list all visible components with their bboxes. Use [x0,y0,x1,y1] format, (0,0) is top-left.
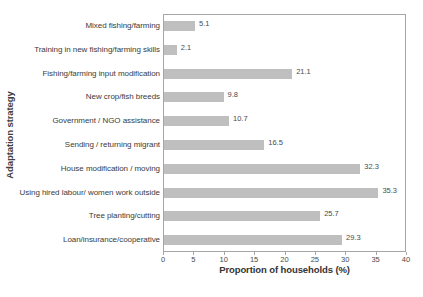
bar-row: 35.3 [164,182,405,206]
x-tick-label: 0 [153,255,173,264]
bar [164,188,378,198]
bar-value-label: 25.7 [324,209,339,218]
bar-value-label: 32.3 [364,162,379,171]
bar-row: 25.7 [164,205,405,229]
x-tick-label: 10 [214,255,234,264]
x-tick-label: 40 [396,255,416,264]
bar [164,211,320,221]
category-label: Government / NGO assistance [16,116,162,126]
x-tick-label: 25 [305,255,325,264]
bar-value-label: 5.1 [199,19,209,28]
bar [164,140,264,150]
x-axis-title: Proportion of households (%) [163,264,406,275]
bar-row: 9.8 [164,86,405,110]
bar-row: 5.1 [164,15,405,39]
bar-row: 29.3 [164,229,405,253]
category-label-text: Loan/insurance/cooperative [16,235,162,245]
bar-value-label: 16.5 [268,138,283,147]
bar [164,235,342,245]
x-tick-label: 30 [335,255,355,264]
x-tick-label: 35 [366,255,386,264]
bar [164,92,224,102]
bar [164,45,177,55]
category-label: House modification / moving [16,164,162,174]
x-tick-label: 20 [275,255,295,264]
bar-value-label: 2.1 [181,43,191,52]
category-label: Mixed fishing/farming [16,21,162,31]
bar-row: 16.5 [164,134,405,158]
x-tick-label: 15 [244,255,264,264]
bars-layer: 5.12.121.19.810.716.532.335.325.729.3 [164,15,405,251]
bar-chart-figure: Adaptation strategy Mixed fishing/farmin… [0,0,423,297]
category-label: Tree planting/cutting [16,211,162,221]
bar [164,69,292,79]
category-label-text: Mixed fishing/farming [16,21,162,31]
category-label-text: Fishing/farming input modification [16,69,162,79]
bar-value-label: 10.7 [233,114,248,123]
bar-value-label: 29.3 [346,233,361,242]
plot-area: 5.12.121.19.810.716.532.335.325.729.3 [163,14,406,252]
category-label-text: Using hired labour/ women work outside [16,188,162,198]
category-label-text: Government / NGO assistance [16,116,162,126]
category-label-text: New crop/fish breeds [16,92,162,102]
bar-row: 10.7 [164,110,405,134]
category-label: Loan/insurance/cooperative [16,235,162,245]
bar-value-label: 35.3 [382,186,397,195]
bar [164,116,229,126]
bar-value-label: 21.1 [296,67,311,76]
category-label-text: Training in new fishing/farming skills [16,45,162,55]
category-label-text: Tree planting/cutting [16,211,162,221]
bar [164,164,360,174]
category-label: Training in new fishing/farming skills [16,45,162,55]
category-label-text: Sending / returning migrant [16,140,162,150]
bar-row: 32.3 [164,158,405,182]
category-label: New crop/fish breeds [16,92,162,102]
bar-row: 2.1 [164,39,405,63]
category-label: Fishing/farming input modification [16,69,162,79]
category-label: Sending / returning migrant [16,140,162,150]
bar-row: 21.1 [164,63,405,87]
category-label-column: Mixed fishing/farmingTraining in new fis… [16,14,162,252]
bar-value-label: 9.8 [228,90,238,99]
category-label: Using hired labour/ women work outside [16,188,162,198]
category-label-text: House modification / moving [16,164,162,174]
x-axis: 0510152025303540 [163,252,406,264]
bar [164,21,195,31]
x-tick-label: 5 [183,255,203,264]
